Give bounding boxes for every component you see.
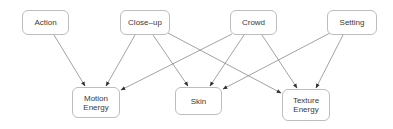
node-action: Action [22, 10, 69, 35]
edge-crowd-to-motion-energy [121, 34, 232, 90]
node-label: Motion Energy [83, 94, 108, 112]
edge-action-to-motion-energy [54, 35, 85, 86]
node-label: Texture Energy [293, 96, 319, 114]
node-setting: Setting [327, 10, 377, 35]
node-skin: Skin [175, 87, 222, 115]
edge-crowd-to-texture-energy [262, 35, 297, 88]
edge-closeup-to-motion-energy [106, 35, 135, 86]
node-motion-energy: Motion Energy [72, 87, 120, 118]
node-texture-energy: Texture Energy [282, 89, 330, 121]
edge-closeup-to-skin [153, 35, 188, 86]
node-label: Setting [340, 18, 365, 27]
node-label: Skin [191, 97, 207, 106]
node-label: Close–up [128, 18, 162, 27]
node-crowd: Crowd [230, 10, 277, 35]
node-label: Crowd [242, 18, 265, 27]
edge-closeup-to-texture-energy [168, 33, 281, 93]
diagram-canvas: Action Close–up Crowd Setting Motion Ene… [0, 0, 393, 129]
node-close-up: Close–up [120, 10, 170, 35]
edge-setting-to-texture-energy [316, 35, 343, 88]
edge-setting-to-skin [223, 33, 330, 89]
node-label: Action [34, 18, 56, 27]
